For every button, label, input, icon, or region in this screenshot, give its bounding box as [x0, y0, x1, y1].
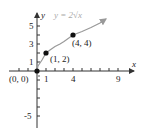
point-label-4-4: (4, 4)	[72, 38, 92, 48]
y-tick-label-1: 1	[29, 57, 34, 67]
point-4-4	[70, 32, 75, 37]
y-axis-label: y	[40, 10, 45, 20]
y-tick-label-5: 5	[29, 21, 34, 31]
x-tick-label-1: 1	[44, 74, 49, 84]
point-label-1-2: (1, 2)	[50, 54, 70, 64]
function-graph: y x y = 2√x 5 3 1 -5 1 4 9 (0, 0) (1, 2)…	[0, 0, 142, 131]
x-tick-label-9: 9	[116, 74, 121, 84]
x-axis-label: x	[131, 59, 136, 69]
y-tick-label-3: 3	[29, 39, 34, 49]
equation-label: y = 2√x	[53, 10, 82, 20]
point-label-origin: (0, 0)	[9, 74, 29, 84]
point-origin	[34, 68, 39, 73]
point-1-2	[43, 50, 48, 55]
x-tick-label-4: 4	[71, 74, 76, 84]
y-tick-label-neg5: -5	[24, 111, 32, 121]
